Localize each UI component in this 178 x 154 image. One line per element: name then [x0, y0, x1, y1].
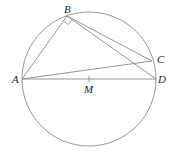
right-angle-mark [64, 20, 73, 25]
segment-bc [67, 16, 152, 61]
segment-ac [22, 61, 152, 79]
geometry-diagram: A B C D M [0, 0, 178, 154]
label-m: M [83, 83, 94, 95]
label-d: D [157, 73, 166, 85]
label-a: A [11, 73, 19, 85]
segment-ab [22, 16, 67, 79]
segment-bd [67, 16, 156, 79]
label-b: B [64, 3, 71, 15]
label-c: C [157, 53, 165, 65]
